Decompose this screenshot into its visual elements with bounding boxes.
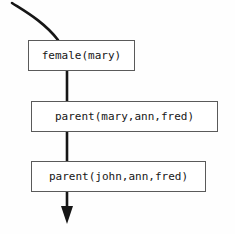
figure-page: female(mary) parent(mary,ann,fred) paren… <box>0 0 235 234</box>
node-parent-john-ann-fred[interactable]: parent(john,ann,fred) <box>31 161 206 192</box>
node-parent-john-ann-fred-label: parent(john,ann,fred) <box>49 171 188 182</box>
node-female-mary-label: female(mary) <box>42 50 121 61</box>
curved-inbound-arrow <box>12 3 58 40</box>
node-parent-mary-ann-fred[interactable]: parent(mary,ann,fred) <box>31 101 218 132</box>
node-parent-mary-ann-fred-label: parent(mary,ann,fred) <box>55 111 194 122</box>
node-female-mary[interactable]: female(mary) <box>28 40 135 71</box>
page-bleed-bottom <box>0 225 235 234</box>
downward-arrowhead-icon <box>61 206 73 224</box>
